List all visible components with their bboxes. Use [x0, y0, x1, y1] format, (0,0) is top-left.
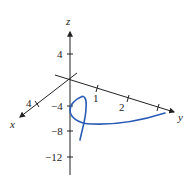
- z-tick-label: −4: [51, 100, 63, 112]
- y-axis-label: y: [177, 111, 183, 123]
- 3d-curve-plot: z 4 −4 −8 −12 y 1 2 x 4: [0, 0, 191, 183]
- z-tick-label: −12: [45, 151, 62, 163]
- x-axis-label: x: [9, 118, 15, 130]
- space-curve: [70, 96, 165, 140]
- x-tick-label: 4: [26, 97, 32, 109]
- x-axis: [20, 73, 77, 117]
- y-tick-label: 1: [93, 92, 99, 104]
- y-tick-label: 2: [119, 101, 125, 113]
- x-tick: [35, 101, 39, 107]
- z-tick-label: −8: [51, 125, 63, 137]
- y-tick: [127, 95, 129, 102]
- z-axis-label: z: [65, 15, 71, 27]
- z-tick-label: 4: [57, 48, 63, 60]
